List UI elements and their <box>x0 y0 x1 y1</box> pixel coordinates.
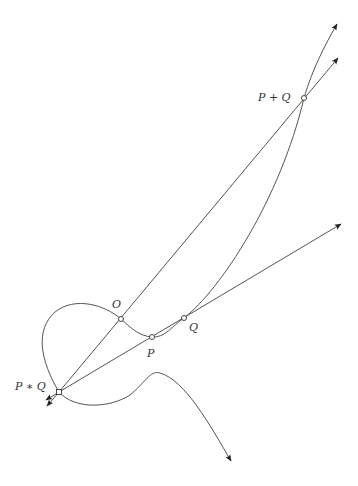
label-P-star-Q: P ∗ Q <box>14 380 46 393</box>
point-Q <box>182 316 187 321</box>
elliptic-curve-diagram: O P Q P + Q P ∗ Q <box>0 0 358 486</box>
label-Q: Q <box>189 321 198 334</box>
point-P-plus-Q <box>302 96 307 101</box>
point-P <box>150 335 155 340</box>
label-O: O <box>112 298 121 311</box>
line-O-PplusQ <box>59 58 338 392</box>
point-P-star-Q <box>57 390 62 395</box>
label-P: P <box>146 347 155 360</box>
curve-lower-branch <box>59 373 231 461</box>
line-P-Q <box>59 224 341 392</box>
label-P-plus-Q: P + Q <box>257 91 291 104</box>
curve-upper-branch <box>42 24 337 392</box>
point-O <box>119 317 124 322</box>
